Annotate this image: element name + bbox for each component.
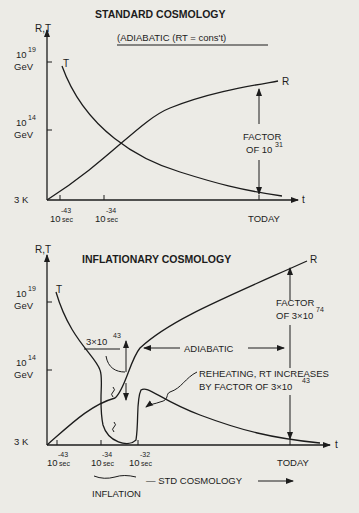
svg-text:3×10: 3×10 <box>86 336 107 347</box>
bottom-ytick-3k: 3 K <box>14 436 29 447</box>
top-xtick-1e-34: 10 -34 sec <box>95 207 118 224</box>
bottom-xtick-1e-34: 10 -34 sec <box>91 451 114 468</box>
bottom-factor-annotation: FACTOR OF 3×10 74 <box>276 297 324 321</box>
inflation-brace <box>94 476 136 479</box>
bottom-x-axis-label: t <box>335 439 338 450</box>
top-ytick-1e19: 10 <box>16 49 27 60</box>
bottom-y-axis-label: R,T <box>35 244 51 255</box>
svg-text:14: 14 <box>28 114 36 121</box>
bottom-curve-T-label: T <box>56 284 62 295</box>
top-factor-annotation: FACTOR OF 10 31 <box>243 131 283 155</box>
bottom-xtick-today: TODAY <box>277 457 310 468</box>
svg-text:10: 10 <box>129 457 140 468</box>
adiabatic-label: ADIABATIC <box>184 343 234 354</box>
svg-text:19: 19 <box>28 285 36 292</box>
standard-cosmology-chart: STANDARD COSMOLOGY (ADIABATIC (RT = cons… <box>14 8 305 224</box>
svg-text:10: 10 <box>47 457 58 468</box>
inflation-label: INFLATION <box>92 488 141 499</box>
svg-text:74: 74 <box>316 306 324 313</box>
svg-text:sec: sec <box>59 460 70 467</box>
top-title: STANDARD COSMOLOGY <box>95 8 225 20</box>
bottom-xtick-1e-43: 10 -43 sec <box>47 451 70 468</box>
svg-text:OF 10: OF 10 <box>246 144 272 155</box>
top-xtick-today: TODAY <box>248 213 281 224</box>
std-cosmology-label: — STD COSMOLOGY <box>146 475 243 486</box>
svg-text:sec: sec <box>62 216 73 223</box>
svg-text:14: 14 <box>28 354 36 361</box>
svg-text:19: 19 <box>28 46 36 53</box>
top-curve-R-label: R <box>282 76 289 87</box>
svg-text:FACTOR: FACTOR <box>276 297 314 308</box>
break-mark <box>112 387 115 397</box>
top-y-axis-label: R,T <box>35 23 51 34</box>
top-ytick-1e14: 10 <box>16 117 27 128</box>
svg-text:GeV: GeV <box>14 61 34 72</box>
bottom-ytick-1e19: 10 <box>16 288 27 299</box>
svg-text:10: 10 <box>91 457 102 468</box>
reheating-annotation: REHEATING, RT INCREASES BY FACTOR OF 3×1… <box>199 368 329 392</box>
bottom-curve-R-label: R <box>310 254 317 265</box>
svg-text:BY FACTOR OF 3×10: BY FACTOR OF 3×10 <box>199 381 292 392</box>
bottom-title: INFLATIONARY COSMOLOGY <box>82 253 231 265</box>
top-x-axis-label: t <box>302 194 305 205</box>
svg-text:GeV: GeV <box>14 300 34 311</box>
top-curve-T-label: T <box>63 58 69 69</box>
svg-text:43: 43 <box>113 332 121 339</box>
svg-text:-43: -43 <box>58 451 68 458</box>
cosmology-diagram: STANDARD COSMOLOGY (ADIABATIC (RT = cons… <box>0 0 359 513</box>
svg-text:-32: -32 <box>140 451 150 458</box>
svg-text:31: 31 <box>275 141 283 148</box>
bottom-ytick-1e14: 10 <box>16 357 27 368</box>
svg-text:-34: -34 <box>106 207 116 214</box>
bottom-xtick-1e-32: 10 -32 sec <box>129 451 152 468</box>
svg-text:sec: sec <box>103 460 114 467</box>
inflationary-cosmology-chart: INFLATIONARY COSMOLOGY R,T t 10 19 GeV 1… <box>14 244 338 499</box>
svg-text:10: 10 <box>50 213 61 224</box>
svg-text:GeV: GeV <box>14 129 34 140</box>
top-subtitle: (ADIABATIC (RT = cons't) <box>117 32 226 43</box>
break-mark <box>113 422 116 432</box>
top-ytick-3k: 3 K <box>14 194 29 205</box>
svg-text:GeV: GeV <box>14 369 34 380</box>
svg-text:10: 10 <box>95 213 106 224</box>
svg-text:OF 3×10: OF 3×10 <box>276 310 313 321</box>
inflation-factor-annotation: 3×10 43 <box>86 332 121 347</box>
svg-text:sec: sec <box>141 460 152 467</box>
svg-text:43: 43 <box>302 377 310 384</box>
svg-text:-34: -34 <box>102 451 112 458</box>
bottom-curve-R <box>47 261 307 445</box>
top-xtick-1e-43: 10 -43 sec <box>50 207 73 224</box>
svg-text:sec: sec <box>107 216 118 223</box>
svg-text:-43: -43 <box>61 207 71 214</box>
